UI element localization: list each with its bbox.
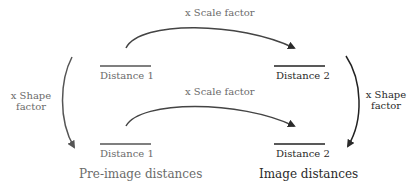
top-right-distance-label: Distance 2 [276,70,330,81]
right-shape-arrow [346,56,359,146]
left-shape-label-line1: x Shape [8,90,54,101]
left-shape-label-line2: factor [8,101,54,112]
pre-image-caption: Pre-image distances [79,167,202,181]
bottom-left-distance-label: Distance 1 [100,148,154,159]
bottom-right-distance-label: Distance 2 [276,148,330,159]
right-shape-label-line2: factor [363,100,409,111]
left-shape-arrow [63,57,75,147]
bottom-scale-label: x Scale factor [185,86,255,97]
top-scale-arrow [126,28,294,48]
image-caption: Image distances [259,167,358,181]
top-left-distance-label: Distance 1 [100,70,154,81]
right-shape-label-line1: x Shape [363,89,409,100]
left-shape-label: x Shape factor [8,90,54,112]
top-scale-label: x Scale factor [185,7,255,18]
bottom-scale-arrow [126,107,294,127]
right-shape-label: x Shape factor [363,89,409,111]
